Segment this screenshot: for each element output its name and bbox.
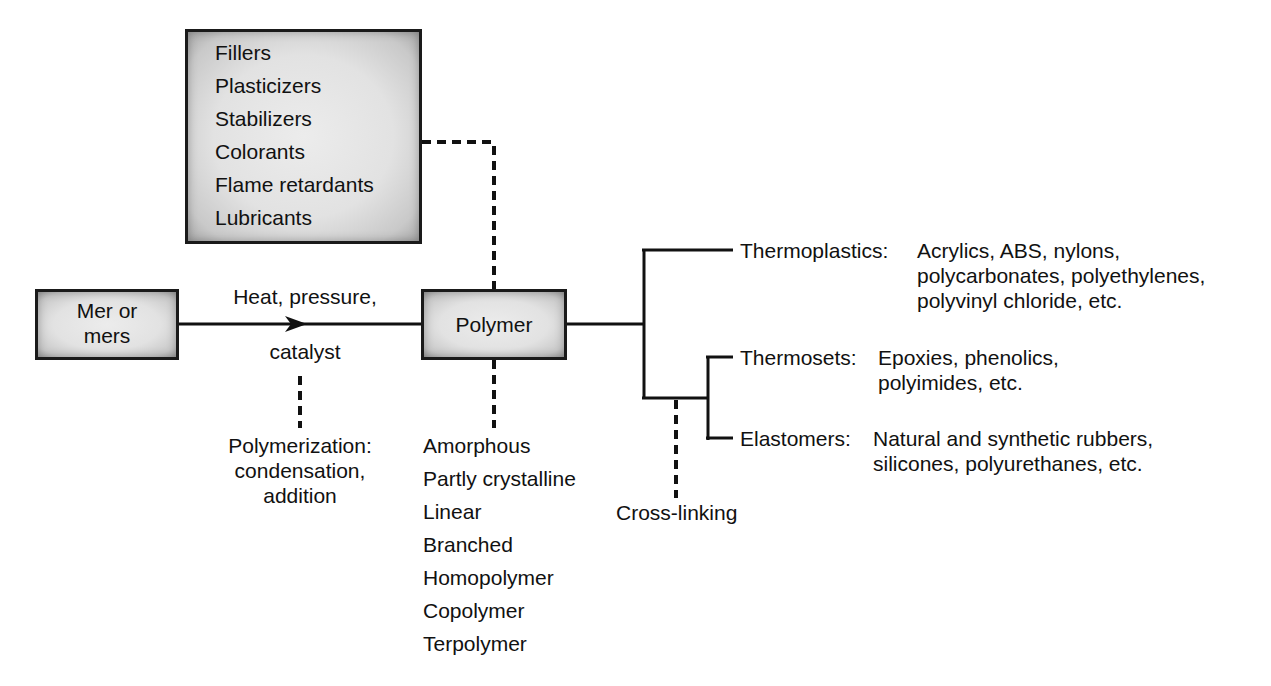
crosslinking-label: Cross-linking: [616, 500, 737, 525]
structure-item: Linear: [423, 499, 481, 524]
category-name: Thermoplastics:: [740, 238, 888, 263]
polymer-label: Polymer: [424, 312, 564, 337]
category-example-line: polycarbonates, polyethylenes,: [917, 263, 1205, 288]
additive-item: Fillers: [215, 40, 271, 65]
polymerization-note-line1: Polymerization:: [200, 433, 400, 458]
structure-item: Branched: [423, 532, 513, 557]
polymer-process-diagram: Fillers Plasticizers Stabilizers Coloran…: [0, 0, 1271, 686]
category-example-line: polyimides, etc.: [878, 370, 1023, 395]
polymerization-note-line2: condensation,: [200, 458, 400, 483]
category-name: Thermosets:: [740, 345, 857, 370]
additive-item: Plasticizers: [215, 73, 321, 98]
additives-box: Fillers Plasticizers Stabilizers Coloran…: [185, 29, 422, 244]
additive-item: Stabilizers: [215, 106, 312, 131]
category-example-line: polyvinyl chloride, etc.: [917, 288, 1122, 313]
category-example-line: silicones, polyurethanes, etc.: [873, 451, 1143, 476]
polymerization-note-line3: addition: [200, 483, 400, 508]
mer-label-line2: mers: [38, 323, 176, 348]
mer-label-line1: Mer or: [38, 298, 176, 323]
mer-box: Mer or mers: [35, 289, 179, 360]
category-example-line: Natural and synthetic rubbers,: [873, 426, 1153, 451]
category-example-line: Epoxies, phenolics,: [878, 345, 1059, 370]
additive-item: Colorants: [215, 139, 305, 164]
category-example-line: Acrylics, ABS, nylons,: [917, 238, 1120, 263]
structure-item: Partly crystalline: [423, 466, 576, 491]
additive-item: Flame retardants: [215, 172, 374, 197]
category-name: Elastomers:: [740, 426, 851, 451]
structure-item: Amorphous: [423, 433, 530, 458]
structure-item: Copolymer: [423, 598, 525, 623]
process-label-bottom: catalyst: [210, 339, 400, 364]
structure-item: Homopolymer: [423, 565, 554, 590]
additive-item: Lubricants: [215, 205, 312, 230]
structure-item: Terpolymer: [423, 631, 527, 656]
polymer-box: Polymer: [421, 289, 567, 360]
process-label-top: Heat, pressure,: [210, 284, 400, 309]
